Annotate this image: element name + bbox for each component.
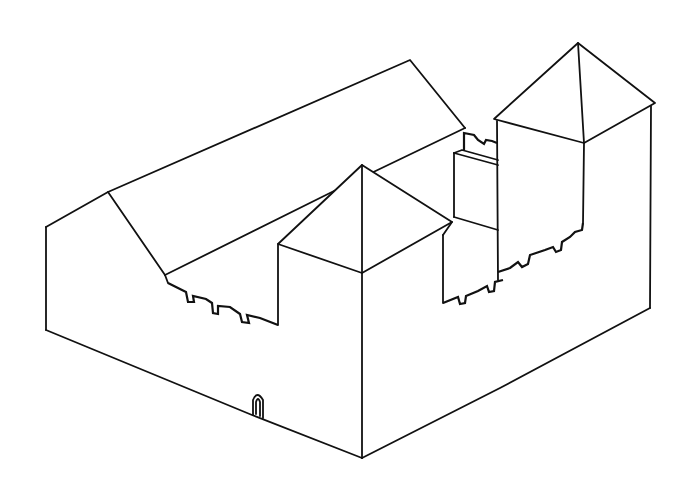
castle-drawing <box>0 0 697 484</box>
east-inner-wall <box>443 222 503 304</box>
keep-tower <box>494 43 655 308</box>
gate-arch <box>253 395 263 418</box>
inner-block <box>454 133 498 230</box>
crenellation-west <box>165 275 278 325</box>
west-hall <box>46 60 465 458</box>
front-tower <box>278 165 650 458</box>
